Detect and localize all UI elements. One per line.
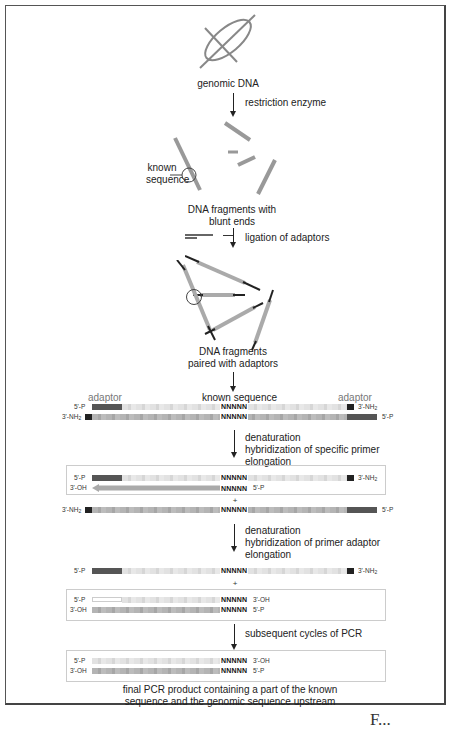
adaptor-block: [347, 475, 354, 481]
strand-bottom: [92, 607, 222, 613]
known-seq: NNNNN: [220, 506, 248, 513]
step4-line3: elongation: [245, 549, 291, 561]
step4-line2: hybridization of primer adaptor: [245, 537, 380, 549]
end-label: 5'-P: [74, 657, 85, 665]
end-label: 5'-P: [253, 484, 264, 492]
step4-line1: denaturation: [245, 525, 301, 537]
strand-top: [92, 658, 222, 664]
genomic-dna-icon: [195, 10, 260, 72]
plus-sign: +: [233, 497, 238, 505]
end-label: 5'-P: [74, 567, 85, 575]
adaptor-block: [347, 568, 354, 574]
known-sequence-label: known sequence: [146, 162, 178, 186]
end-label: 5'-P: [382, 506, 393, 514]
end-label: 3'-OH: [253, 657, 270, 665]
adaptor-block: [85, 414, 92, 420]
step3-line2: hybridization of specific primer: [245, 444, 380, 456]
adaptor-icon: [185, 232, 215, 240]
adaptor-block: [347, 414, 377, 420]
end-label: 5'-P: [382, 413, 393, 421]
end-label: 5'-P: [253, 606, 264, 614]
end-label: 3'-OH: [253, 596, 270, 604]
step-ligation: ligation of adaptors: [245, 232, 330, 244]
known-seq: NNNNN: [220, 567, 248, 574]
adaptor-complement: [92, 597, 122, 602]
arrow-down-icon: [234, 430, 235, 454]
plus-sign: +: [233, 580, 238, 588]
paired-line2: paired with adaptors: [188, 358, 278, 370]
final-caption-line2: sequence and the genomic sequence upstre…: [60, 696, 400, 708]
adaptor-block: [92, 475, 122, 481]
genomic-dna-label: genomic DNA: [197, 78, 259, 90]
end-label: 3'-NH2: [358, 403, 377, 412]
arrow-down-icon: [233, 93, 234, 113]
final-caption: final PCR product containing a part of t…: [60, 684, 400, 708]
known-seq: NNNNN: [220, 485, 248, 492]
end-label: 5'-P: [74, 403, 85, 411]
known-seq: NNNNN: [220, 596, 248, 603]
adaptor-left-label: adaptor: [88, 392, 122, 404]
adaptor-block: [92, 568, 122, 574]
product-box: [66, 589, 386, 621]
end-label: 3'-OH: [70, 606, 87, 614]
known-line2: sequence: [146, 174, 178, 186]
footer-partial-text: F...: [370, 710, 391, 729]
adaptor-block: [85, 507, 92, 513]
arrow-down-icon: [233, 228, 234, 244]
arrow-down-icon: [234, 624, 235, 646]
end-label: 3'-NH2: [62, 506, 81, 515]
end-label: 3'-NH2: [358, 567, 377, 576]
known-seq: NNNNN: [220, 606, 248, 613]
adaptor-block: [347, 507, 377, 513]
dna-fragments-icon: [170, 118, 280, 203]
arrow-down-icon: [233, 372, 234, 388]
arrow-down-icon: [234, 524, 235, 548]
paired-fragment-known: [175, 260, 225, 355]
adaptor-block: [92, 404, 122, 410]
known-seq: NNNNN: [220, 667, 248, 674]
fragments-line2: blunt ends: [188, 216, 276, 228]
end-label: 3'-NH2: [358, 474, 377, 483]
step3-line1: denaturation: [245, 432, 301, 444]
end-label: 3'-OH: [70, 484, 87, 492]
fragments-label: DNA fragments with blunt ends: [188, 204, 276, 228]
adaptor-block: [347, 404, 354, 410]
known-line1: known: [146, 162, 178, 174]
ligation-connector: [223, 235, 233, 236]
strand-top: [122, 597, 222, 603]
paired-label: DNA fragments paired with adaptors: [188, 346, 278, 370]
final-caption-line1: final PCR product containing a part of t…: [60, 684, 400, 696]
end-label: 3'-OH: [70, 667, 87, 675]
primer-extension-arrow: [92, 484, 222, 492]
known-seq: NNNNN: [220, 474, 248, 481]
end-label: 3'-NH2: [62, 413, 81, 422]
end-label: 5'-P: [74, 474, 85, 482]
known-seq: NNNNN: [220, 657, 248, 664]
step5-label: subsequent cycles of PCR: [245, 628, 362, 640]
paired-line1: DNA fragments: [188, 346, 278, 358]
fragments-line1: DNA fragments with: [188, 204, 276, 216]
final-product-box: [66, 650, 386, 682]
known-seq: NNNNN: [220, 413, 248, 420]
known-seq: NNNNN: [220, 403, 248, 410]
end-label: 5'-P: [74, 596, 85, 604]
strand-bottom: [92, 668, 222, 674]
step-restriction-enzyme: restriction enzyme: [245, 97, 326, 109]
end-label: 5'-P: [253, 667, 264, 675]
